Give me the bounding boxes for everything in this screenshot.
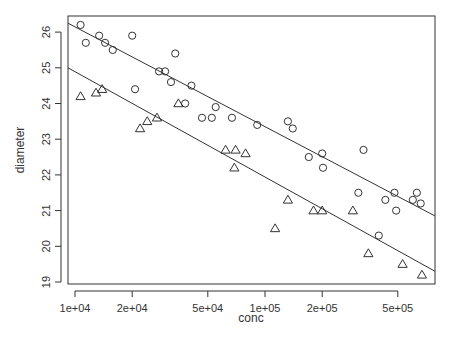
- y-tick-label: 24: [40, 97, 52, 109]
- x-tick-label: 2e+04: [117, 302, 148, 314]
- y-tick-label: 19: [40, 276, 52, 288]
- circle-point: [289, 125, 296, 132]
- circle-point: [375, 232, 382, 239]
- triangle-point: [143, 117, 152, 125]
- circle-point: [284, 118, 291, 125]
- triangle-point: [417, 270, 426, 278]
- triangle-point: [270, 224, 279, 232]
- triangle-point: [221, 145, 230, 153]
- y-tick-label: 25: [40, 62, 52, 74]
- circle-point: [228, 114, 235, 121]
- circle-point: [319, 164, 326, 171]
- triangle-point: [283, 195, 292, 203]
- fit-triangles-line: [68, 68, 435, 271]
- circle-point: [208, 114, 215, 121]
- circle-point: [305, 153, 312, 160]
- circle-point: [82, 39, 89, 46]
- circle-point: [409, 196, 416, 203]
- plot-border: [68, 16, 435, 284]
- triangle-point: [309, 206, 318, 214]
- circle-point: [167, 78, 174, 85]
- triangle-point: [231, 145, 240, 153]
- triangle-point: [398, 260, 407, 268]
- circle-point: [319, 150, 326, 157]
- x-tick-label: 1e+04: [60, 302, 91, 314]
- circle-point: [382, 196, 389, 203]
- y-tick-label: 23: [40, 133, 52, 145]
- circle-point: [172, 50, 179, 57]
- y-tick-label: 20: [40, 240, 52, 252]
- triangle-point: [364, 249, 373, 257]
- circle-point: [391, 189, 398, 196]
- y-axis: 1920212223242526: [40, 26, 61, 288]
- circle-point: [198, 114, 205, 121]
- y-axis-label: diameter: [13, 127, 27, 174]
- y-tick-label: 26: [40, 26, 52, 38]
- x-tick-label: 5e+04: [192, 302, 223, 314]
- circle-point: [109, 46, 116, 53]
- x-axis-label: conc: [238, 311, 263, 325]
- circle-point: [131, 86, 138, 93]
- triangle-point: [230, 163, 239, 171]
- x-tick-label: 2e+05: [307, 302, 338, 314]
- circle-point: [413, 189, 420, 196]
- circle-point: [77, 21, 84, 28]
- fit-circles-line: [68, 23, 435, 216]
- circle-point: [96, 32, 103, 39]
- circle-point: [129, 32, 136, 39]
- x-tick-label: 5e+05: [382, 302, 413, 314]
- data-points: [76, 21, 427, 278]
- circle-point: [355, 189, 362, 196]
- y-tick-label: 22: [40, 169, 52, 181]
- y-tick-label: 21: [40, 204, 52, 216]
- circle-point: [393, 207, 400, 214]
- circle-point: [212, 103, 219, 110]
- triangle-point: [241, 149, 250, 157]
- circle-point: [417, 200, 424, 207]
- triangle-point: [348, 206, 357, 214]
- fit-lines: [68, 23, 435, 271]
- triangle-point: [76, 92, 85, 100]
- x-axis: 1e+042e+045e+041e+052e+055e+05: [60, 291, 414, 314]
- circle-point: [360, 146, 367, 153]
- scatter-chart: 1e+042e+045e+041e+052e+055e+05 192021222…: [0, 0, 449, 348]
- plot-frame: [68, 16, 435, 284]
